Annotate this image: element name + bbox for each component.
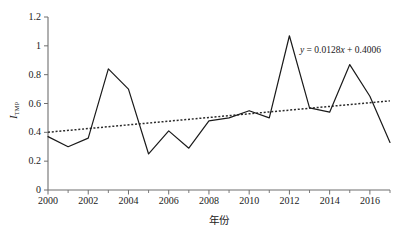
x-tick-2014: 2014: [310, 196, 350, 206]
equation-tail: + 0.4006: [345, 45, 381, 55]
equation-body: = 0.0128: [304, 45, 340, 55]
chart-figure: 00.20.40.60.811.2 2000200220042006200820…: [0, 0, 397, 232]
y-tick-0.2: 0.2: [29, 156, 42, 166]
trend-line-series: [48, 101, 390, 132]
y-tick-1.2: 1.2: [29, 12, 42, 22]
x-tick-2004: 2004: [108, 196, 148, 206]
y-tick-0.8: 0.8: [29, 70, 42, 80]
y-axis-title-subscript: TMP: [13, 101, 20, 115]
x-tick-2008: 2008: [189, 196, 229, 206]
y-tick-0.4: 0.4: [29, 127, 42, 137]
chart-axes: [44, 17, 390, 195]
y-tick-1: 1: [36, 41, 41, 51]
x-tick-2010: 2010: [229, 196, 269, 206]
x-tick-2006: 2006: [149, 196, 189, 206]
x-tick-2016: 2016: [350, 196, 390, 206]
trend-equation-label: y = 0.0128x + 0.4006: [300, 45, 381, 55]
y-axis-title: ITMP: [8, 90, 20, 130]
x-tick-2002: 2002: [68, 196, 108, 206]
y-tick-0.6: 0.6: [29, 99, 42, 109]
x-axis-title: 年份: [179, 212, 259, 227]
x-tick-2000: 2000: [28, 196, 68, 206]
y-axis-title-main: I: [8, 115, 19, 118]
x-tick-2012: 2012: [269, 196, 309, 206]
y-tick-0: 0: [36, 185, 41, 195]
